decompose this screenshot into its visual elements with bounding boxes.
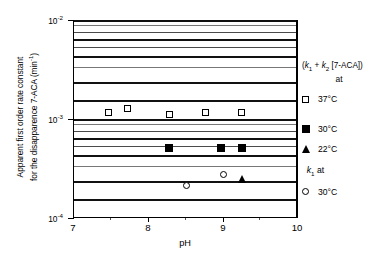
- data-point-37c: [124, 105, 131, 112]
- x-axis-tick-minor: [185, 218, 186, 220]
- y-tick-label-1e-2: 10-2: [23, 14, 63, 26]
- legend-header: (k1 + k2 [7-ACA]): [302, 60, 386, 74]
- y-axis-label-exponent: -1: [28, 56, 34, 61]
- legend-header-at: at: [302, 74, 376, 85]
- x-tick-label-10: 10: [282, 222, 312, 233]
- y-tick-label-1e-3: 10-3: [23, 113, 63, 125]
- data-point-37c: [105, 109, 112, 116]
- chart-figure: Apparent first order rate constant for t…: [0, 0, 386, 260]
- legend-label-37c: 37°C: [318, 94, 337, 104]
- x-axis-tick-minor: [110, 218, 111, 220]
- legend-label-k1-30c: 30°C: [318, 187, 337, 197]
- data-point-30c: [238, 144, 246, 152]
- data-point-k1-30c: [183, 182, 190, 189]
- legend-item-30c: 30°C: [302, 124, 386, 135]
- x-tick-label-7: 7: [58, 222, 88, 233]
- data-point-22c: [238, 175, 246, 183]
- x-tick-label-9: 9: [208, 222, 238, 233]
- filled-square-icon: [302, 125, 318, 133]
- x-axis-label: pH: [0, 238, 370, 248]
- legend-item-22c: 22°C: [302, 144, 386, 155]
- legend-item-37c: 37°C: [302, 94, 386, 105]
- x-tick-label-8: 8: [133, 222, 163, 233]
- legend: (k1 + k2 [7-ACA]) at 37°C 30°C 22°C k1 a…: [302, 60, 386, 197]
- legend-label-22c: 22°C: [318, 144, 337, 154]
- plot-right-spine: [296, 20, 298, 218]
- filled-triangle-icon: [302, 145, 318, 153]
- open-circle-icon: [302, 188, 318, 195]
- data-point-37c: [166, 111, 173, 118]
- x-axis-tick-minor: [259, 218, 260, 220]
- y-tick-label-1e-4: 10-4: [23, 212, 63, 224]
- legend-header-k1: k1 at: [302, 165, 386, 177]
- open-square-icon: [302, 96, 318, 103]
- data-point-37c: [202, 109, 209, 116]
- legend-label-30c: 30°C: [318, 124, 337, 134]
- data-point-k1-30c: [220, 171, 227, 178]
- data-point-30c: [217, 144, 225, 152]
- legend-item-k1-30c: 30°C: [302, 186, 386, 197]
- data-point-37c: [238, 109, 245, 116]
- data-point-30c: [165, 144, 173, 152]
